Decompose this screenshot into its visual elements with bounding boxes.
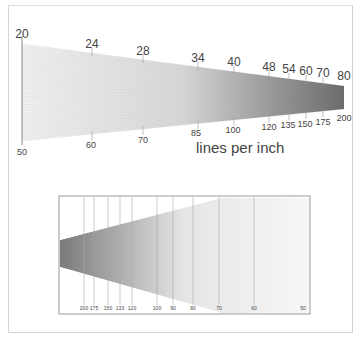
lower-label: 50 [17, 147, 27, 157]
bottom-label: 150 [104, 305, 113, 311]
lower-label: 100 [225, 125, 240, 135]
bottom-label: 100 [153, 305, 162, 311]
unit-label: lines per inch [196, 139, 284, 156]
lower-label: 150 [297, 119, 312, 129]
bottom-label: 80 [190, 305, 196, 311]
bottom-label: 175 [90, 305, 99, 311]
upper-label: 34 [191, 51, 205, 65]
lower-label: 70 [138, 135, 148, 145]
lower-label: 175 [315, 117, 330, 127]
upper-label: 24 [85, 37, 99, 51]
upper-label: 60 [299, 64, 313, 78]
lower-label: 120 [261, 122, 276, 132]
line-screen-gauge: 20 24 28 34 40 48 54 60 70 80 50 60 70 8… [0, 0, 359, 341]
bottom-label: 133 [116, 305, 125, 311]
lower-label: 85 [191, 128, 201, 138]
bottom-label: 70 [216, 305, 222, 311]
upper-label: 48 [262, 60, 276, 74]
bottom-label: 120 [128, 305, 137, 311]
lower-label: 60 [86, 140, 96, 150]
upper-label: 40 [227, 55, 241, 69]
upper-label: 54 [282, 62, 296, 76]
lower-label: 135 [280, 120, 295, 130]
upper-label: 20 [15, 27, 29, 41]
upper-label: 80 [337, 69, 351, 83]
upper-label: 28 [136, 44, 150, 58]
bottom-label: 200 [80, 305, 89, 311]
bottom-label: 60 [251, 305, 257, 311]
bottom-label: 50 [300, 305, 306, 311]
lower-label: 200 [336, 113, 351, 123]
upper-label: 70 [316, 66, 330, 80]
bottom-label: 90 [170, 305, 176, 311]
